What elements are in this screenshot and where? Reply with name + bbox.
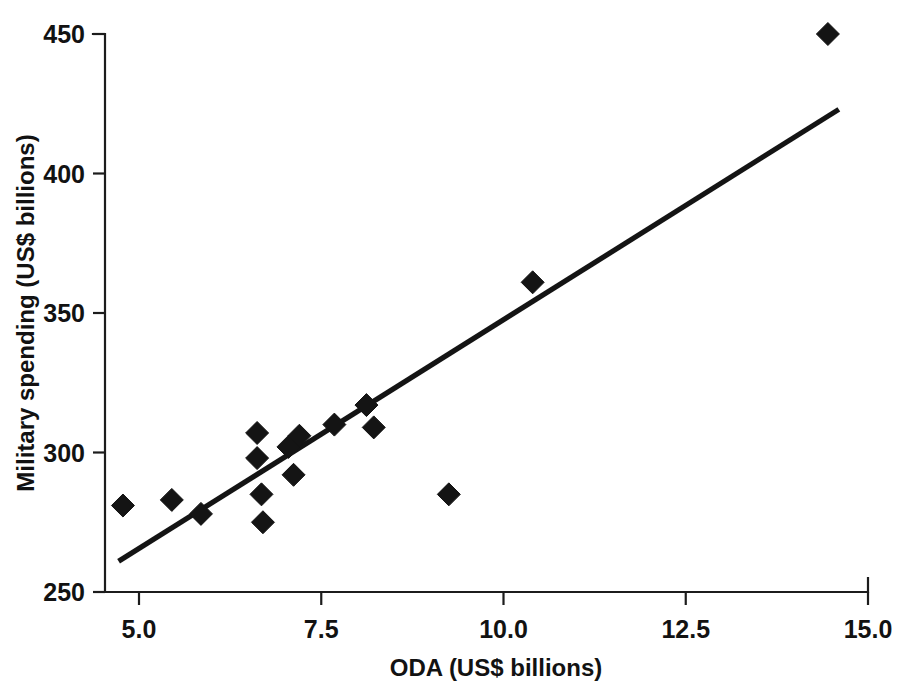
- data-point-marker: [362, 416, 385, 439]
- data-point-marker: [111, 494, 134, 517]
- trend-line: [119, 109, 839, 561]
- x-tick-label: 10.0: [479, 615, 528, 643]
- axes-group: [93, 34, 868, 592]
- x-tick-label: 15.0: [844, 615, 893, 643]
- ticks-group: [93, 34, 868, 605]
- y-tick-label: 450: [43, 20, 85, 48]
- x-axis-title: ODA (US$ billions): [390, 654, 602, 681]
- data-point-marker: [251, 511, 274, 534]
- data-point-marker: [521, 271, 544, 294]
- scatter-plot-svg: 2503003504004505.07.510.012.515.0 ODA (U…: [0, 0, 903, 693]
- y-tick-label: 350: [43, 299, 85, 327]
- data-point-marker: [246, 447, 269, 470]
- x-tick-label: 12.5: [661, 615, 710, 643]
- data-point-marker: [437, 483, 460, 506]
- data-point-marker: [282, 463, 305, 486]
- chart-figure: 2503003504004505.07.510.012.515.0 ODA (U…: [0, 0, 903, 693]
- data-point-marker: [816, 23, 839, 46]
- tick-labels-group: 2503003504004505.07.510.012.515.0: [43, 20, 892, 643]
- y-tick-label: 250: [43, 578, 85, 606]
- data-markers: [111, 23, 839, 534]
- data-point-marker: [250, 483, 273, 506]
- y-tick-label: 300: [43, 439, 85, 467]
- axis-spine: [93, 34, 868, 592]
- y-axis-title: Military spending (US$ billions): [12, 134, 39, 491]
- x-tick-label: 5.0: [122, 615, 157, 643]
- y-tick-label: 400: [43, 160, 85, 188]
- data-point-marker: [246, 421, 269, 444]
- data-point-marker: [160, 488, 183, 511]
- x-tick-label: 7.5: [304, 615, 339, 643]
- regression-line: [119, 109, 839, 561]
